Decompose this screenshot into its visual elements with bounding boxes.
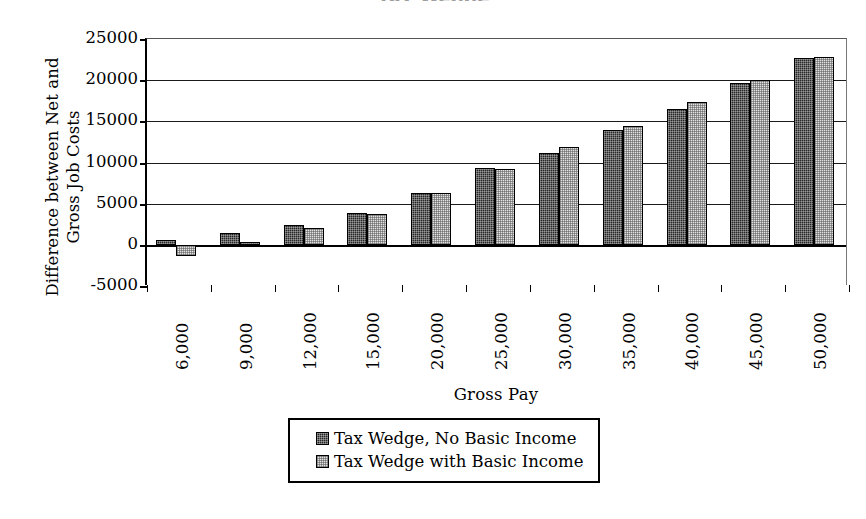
y-axis-tick-label: 10000 [38, 153, 138, 170]
legend-item: Tax Wedge, No Basic Income [290, 427, 598, 450]
bar [240, 242, 260, 245]
bar [304, 228, 324, 245]
x-axis-tick-mark [147, 285, 148, 292]
bar [176, 245, 196, 257]
legend-swatch-icon [316, 432, 329, 445]
bar [495, 169, 515, 245]
bar [623, 126, 643, 245]
bar [794, 58, 814, 244]
y-axis-tick-label: 0 [38, 236, 138, 253]
bar [730, 83, 750, 245]
bar [220, 233, 240, 245]
x-axis-tick-mark [338, 285, 339, 292]
x-axis-tick-mark [211, 285, 212, 292]
y-axis-tick-label: -5000 [38, 277, 138, 294]
y-axis-tick-labels: 2500020000150001000050000-5000 [28, 0, 138, 519]
bar [367, 214, 387, 244]
gridline [147, 80, 846, 81]
x-axis-tick-mark [402, 285, 403, 292]
bar [814, 57, 834, 245]
y-axis-tick-label: 20000 [38, 71, 138, 88]
y-axis-tick-label: 25000 [38, 30, 138, 47]
x-axis-tick-label-text: 50,000 [813, 312, 830, 370]
y-axis-tick-label: 15000 [38, 112, 138, 129]
x-axis-tick-label-text: 20,000 [430, 312, 447, 370]
x-axis-title: Gross Pay [145, 385, 847, 404]
x-axis-tick-mark [594, 285, 595, 292]
x-axis-tick-label-text: 35,000 [622, 312, 639, 370]
bar [687, 102, 707, 245]
bar [284, 225, 304, 245]
x-axis-tick-labels: 6,0009,00012,00015,00020,00025,00030,000… [145, 292, 847, 372]
legend-item-label: Tax Wedge with Basic Income [334, 451, 583, 472]
bar [667, 109, 687, 245]
x-axis-tick-label-text: 30,000 [558, 312, 575, 370]
bar [539, 153, 559, 245]
legend-item: Tax Wedge with Basic Income [290, 450, 598, 473]
x-axis-tick-label-text: 12,000 [303, 312, 320, 370]
x-axis-tick-mark [275, 285, 276, 292]
gridline [147, 245, 846, 247]
y-axis-tick-mark [140, 245, 147, 247]
legend-item-label: Tax Wedge, No Basic Income [334, 428, 576, 449]
x-axis-tick-label-text: 6,000 [175, 323, 192, 370]
bar [475, 168, 495, 245]
plot-area [145, 38, 847, 285]
y-axis-tick-mark [140, 163, 147, 165]
y-axis-tick-label: 5000 [38, 194, 138, 211]
y-axis-tick-mark [140, 80, 147, 82]
chart-legend: Tax Wedge, No Basic IncomeTax Wedge with… [288, 418, 600, 483]
x-axis-tick-mark [785, 285, 786, 292]
x-axis-tick-label-text: 45,000 [749, 312, 766, 370]
bar-chart: Tax Wedge Difference between Net and Gro… [0, 0, 866, 519]
x-axis-tick-mark [721, 285, 722, 292]
x-axis-tick-label-text: 25,000 [494, 312, 511, 370]
bar [603, 130, 623, 244]
bar [750, 80, 770, 245]
bar [431, 193, 451, 244]
x-axis-tick-mark [530, 285, 531, 292]
bar [156, 240, 176, 245]
x-axis-tick-label-text: 9,000 [239, 323, 256, 370]
x-axis-tick-mark [658, 285, 659, 292]
bar [347, 213, 367, 245]
y-axis-tick-mark [140, 286, 147, 288]
x-axis-tick-label-text: 40,000 [685, 312, 702, 370]
y-axis-tick-mark [140, 121, 147, 123]
bar [559, 147, 579, 245]
x-axis-tick-mark [849, 285, 850, 292]
x-axis-tick-label-text: 15,000 [366, 312, 383, 370]
x-axis-tick-mark [466, 285, 467, 292]
y-axis-tick-mark [140, 39, 147, 41]
bar [411, 193, 431, 245]
legend-swatch-icon [316, 455, 329, 468]
y-axis-tick-mark [140, 204, 147, 206]
